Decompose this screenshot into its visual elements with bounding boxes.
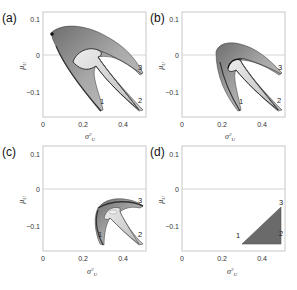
x-tick: 0: [180, 255, 184, 262]
x-tick: 0.2: [217, 121, 227, 128]
contour-ellipse: [109, 210, 117, 214]
curve-label-2: 2: [277, 96, 281, 105]
panel-a: (a) 1 2 3 0.1 0 −0.1 0 0.2 0.4 σ2U μU: [2, 11, 146, 142]
y-tick: 0: [175, 52, 179, 59]
y-tick: −0.1: [26, 223, 40, 230]
curve-label-2: 2: [279, 229, 283, 238]
panel-c: (c) 1 2 3 0.1 0 −0.1 0 0.2 0.4 σ2U μU: [2, 145, 146, 277]
triangle-region: [242, 207, 281, 244]
x-tick: 0.2: [78, 121, 88, 128]
y-tick: 0: [36, 52, 40, 59]
panel-b: (b) 1 2 3 0.1 0 −0.1 0 0.2 0.4 σ2U μU: [150, 11, 285, 142]
panel-label-a: (a): [2, 11, 17, 25]
x-axis-label: σ2U: [227, 267, 237, 277]
y-tick: −0.1: [165, 223, 179, 230]
x-tick: 0.2: [217, 255, 227, 262]
data-point: [50, 32, 54, 36]
y-tick: −0.1: [26, 89, 40, 96]
y-tick: 0: [36, 186, 40, 193]
y-tick: 0.1: [169, 16, 179, 23]
x-axis-label: σ2U: [85, 132, 95, 142]
x-axis-label: σ2U: [87, 267, 97, 277]
y-tick: 0.1: [30, 151, 40, 158]
y-tick: −0.1: [165, 89, 179, 96]
curve-label-1: 1: [239, 97, 243, 106]
x-tick: 0.4: [257, 121, 267, 128]
x-axis-label: σ2U: [225, 132, 235, 142]
y-tick: 0.1: [30, 16, 40, 23]
x-tick: 0: [180, 121, 184, 128]
curve-label-1: 1: [98, 230, 102, 239]
panel-label-b: (b): [150, 11, 165, 25]
x-tick: 0.4: [118, 121, 128, 128]
x-tick: 0.4: [257, 255, 267, 262]
y-tick: 0: [175, 186, 179, 193]
x-tick: 0: [41, 255, 45, 262]
curve-label-3: 3: [138, 63, 142, 72]
curve-label-1: 1: [236, 231, 240, 240]
panel-label-d: (d): [150, 145, 165, 159]
y-axis-label: μU: [17, 196, 27, 205]
y-tick: 0.1: [169, 151, 179, 158]
curve-label-3: 3: [138, 196, 142, 205]
x-tick: 0.2: [78, 255, 88, 262]
figure: (a) 1 2 3 0.1 0 −0.1 0 0.2 0.4 σ2U μU (b…: [0, 0, 297, 290]
x-tick: 0: [41, 121, 45, 128]
y-axis-label: μU: [156, 196, 166, 205]
curve-label-1: 1: [100, 97, 104, 106]
curve-label-3: 3: [278, 63, 282, 72]
panel-d: (d) 1 2 3 0.1 0 −0.1 0 0.2 0.4 σ2U μU: [150, 145, 285, 277]
curve-label-2: 2: [138, 230, 142, 239]
panel-label-c: (c): [2, 145, 16, 159]
curve-label-2: 2: [138, 96, 142, 105]
y-axis-label: μU: [17, 62, 27, 71]
x-tick: 0.4: [118, 255, 128, 262]
y-axis-label: μU: [156, 62, 166, 71]
curve-label-3: 3: [279, 198, 283, 207]
